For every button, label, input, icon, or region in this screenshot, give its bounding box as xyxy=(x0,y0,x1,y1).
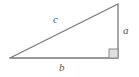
triangle-graphic xyxy=(0,0,139,77)
right-triangle-diagram: c a b xyxy=(0,0,139,77)
right-angle-marker-icon xyxy=(109,49,118,58)
triangle-outline xyxy=(10,4,118,58)
vertical-leg-label: a xyxy=(123,25,129,36)
hypotenuse-label: c xyxy=(53,14,58,25)
horizontal-leg-label: b xyxy=(59,62,65,73)
